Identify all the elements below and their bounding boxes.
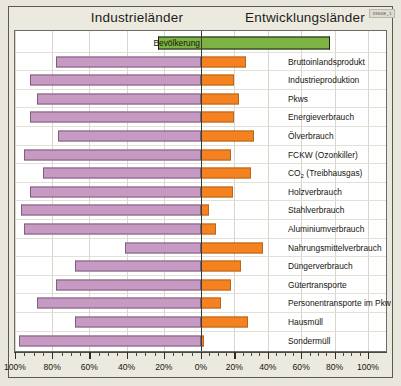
axis-tick-minor bbox=[34, 352, 35, 356]
row-label: Gütertransporte bbox=[288, 281, 347, 289]
row-label: Bruttoinlandsprodukt bbox=[288, 57, 365, 65]
axis-tick-minor bbox=[285, 352, 286, 356]
axis-tick-major bbox=[301, 352, 302, 359]
axis-tick-label: 40% bbox=[259, 362, 276, 372]
row-label: Personentransporte im Pkw bbox=[288, 299, 391, 307]
bar-industrial-countries bbox=[37, 298, 201, 309]
axis-tick-minor bbox=[117, 352, 118, 356]
header-title-left: Industrieländer bbox=[57, 10, 217, 25]
bar-industrial-countries bbox=[58, 131, 201, 142]
axis-tick-major bbox=[15, 352, 16, 359]
axis-tick-minor bbox=[293, 352, 294, 356]
axis-tick-major bbox=[127, 352, 128, 359]
row-label: Düngerverbrauch bbox=[288, 262, 353, 270]
axis-tick-minor bbox=[182, 352, 183, 356]
axis-tick-minor bbox=[259, 352, 260, 356]
row-label: CO2 (Treibhausgas) bbox=[288, 169, 362, 177]
row-label: Holzverbrauch bbox=[288, 188, 342, 196]
row-label: Industrieproduktion bbox=[288, 76, 359, 84]
row-label: Ölverbrauch bbox=[288, 132, 334, 140]
axis-tick-label: 0% bbox=[195, 362, 207, 372]
axis-tick-label: 20% bbox=[226, 362, 243, 372]
bar-developing-countries bbox=[201, 75, 234, 86]
axis-tick-minor bbox=[310, 352, 311, 356]
header-title-right: Entwicklungsländer bbox=[217, 10, 393, 25]
axis-tick-minor bbox=[145, 352, 146, 356]
bar-industrial-countries bbox=[30, 186, 201, 197]
bar-developing-countries bbox=[201, 56, 246, 67]
axis-tick-minor bbox=[173, 352, 174, 356]
axis-tick-minor bbox=[24, 352, 25, 356]
axis-tick-minor bbox=[108, 352, 109, 356]
axis-tick-minor bbox=[155, 352, 156, 356]
bar-developing-countries bbox=[201, 112, 234, 123]
row-label: Stahlverbrauch bbox=[288, 206, 344, 214]
axis-tick-major bbox=[268, 352, 269, 359]
axis-tick-label: 80% bbox=[326, 362, 343, 372]
bar-population-right bbox=[201, 37, 330, 50]
row-label: Nahrungsmittelverbrauch bbox=[288, 243, 382, 251]
axis-tick-minor bbox=[360, 352, 361, 356]
bar-developing-countries bbox=[201, 186, 233, 197]
row-label: Bevölkerung bbox=[153, 39, 200, 47]
bar-developing-countries bbox=[201, 317, 248, 328]
plot-area: BevölkerungBruttoinlandsproduktIndustrie… bbox=[14, 30, 387, 352]
axis-tick-minor bbox=[136, 352, 137, 356]
bar-industrial-countries bbox=[56, 279, 201, 290]
bar-developing-countries bbox=[201, 242, 263, 253]
axis-tick-major bbox=[368, 352, 369, 359]
axis-tick-major bbox=[52, 352, 53, 359]
axis-tick-minor bbox=[71, 352, 72, 356]
chart-header: Industrieländer Entwicklungsländer bbox=[9, 7, 392, 30]
bar-industrial-countries bbox=[21, 205, 201, 216]
bar-developing-countries bbox=[201, 298, 221, 309]
bar-developing-countries bbox=[201, 261, 241, 272]
axis-tick-minor bbox=[99, 352, 100, 356]
row-label: Sondermüll bbox=[288, 336, 330, 344]
row-label: Energieverbrauch bbox=[288, 113, 354, 121]
axis-tick-minor bbox=[218, 352, 219, 356]
figure-code-label: 3966E_1 bbox=[369, 9, 395, 18]
axis-tick-label: 60% bbox=[81, 362, 98, 372]
axis-tick-major bbox=[89, 352, 90, 359]
axis-tick-label: 60% bbox=[293, 362, 310, 372]
axis-tick-major bbox=[335, 352, 336, 359]
axis-tick-label: 100% bbox=[4, 362, 26, 372]
axis-tick-major bbox=[234, 352, 235, 359]
bar-industrial-countries bbox=[30, 75, 201, 86]
axis-tick-minor bbox=[209, 352, 210, 356]
axis-tick-minor bbox=[251, 352, 252, 356]
axis-tick-minor bbox=[276, 352, 277, 356]
x-axis-labels: 100%80%60%40%20%0%20%40%60%80%100% bbox=[14, 362, 387, 376]
bar-developing-countries bbox=[201, 149, 231, 160]
axis-tick-minor bbox=[80, 352, 81, 356]
axis-tick-minor bbox=[326, 352, 327, 356]
axis-tick-major bbox=[201, 352, 202, 359]
bar-industrial-countries bbox=[24, 149, 201, 160]
row-label: Pkws bbox=[288, 95, 308, 103]
bar-industrial-countries bbox=[125, 242, 201, 253]
zero-axis-line bbox=[201, 31, 202, 351]
bar-industrial-countries bbox=[75, 317, 201, 328]
axis-tick-label: 40% bbox=[118, 362, 135, 372]
bar-industrial-countries bbox=[37, 93, 201, 104]
axis-tick-label: 100% bbox=[357, 362, 379, 372]
bar-industrial-countries bbox=[30, 112, 201, 123]
row-label: FCKW (Ozonkiller) bbox=[288, 150, 358, 158]
axis-tick-minor bbox=[318, 352, 319, 356]
bar-developing-countries bbox=[201, 168, 251, 179]
bar-industrial-countries bbox=[19, 335, 201, 346]
axis-tick-minor bbox=[62, 352, 63, 356]
x-axis bbox=[14, 352, 387, 362]
row-label: Hausmüll bbox=[288, 318, 323, 326]
axis-tick-label: 80% bbox=[44, 362, 61, 372]
axis-tick-minor bbox=[351, 352, 352, 356]
axis-tick-minor bbox=[243, 352, 244, 356]
bar-industrial-countries bbox=[75, 261, 201, 272]
axis-tick-minor bbox=[343, 352, 344, 356]
bar-developing-countries bbox=[201, 279, 231, 290]
chart-page: Industrieländer Entwicklungsländer 3966E… bbox=[0, 0, 401, 386]
bar-industrial-countries bbox=[56, 56, 201, 67]
bar-industrial-countries bbox=[24, 224, 201, 235]
row-label: Aluminiumverbrauch bbox=[288, 225, 364, 233]
